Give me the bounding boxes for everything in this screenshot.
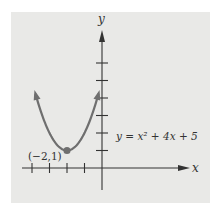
- x-axis-arrow: [178, 165, 190, 171]
- y-axis-label: y: [97, 12, 105, 26]
- vertex-label: (−2,1): [28, 150, 62, 162]
- x-axis-label: x: [192, 161, 199, 175]
- y-axis-arrow: [99, 30, 105, 42]
- curve-left-arrow: [34, 90, 41, 101]
- parabola-graph: x y y = x² + 4x + 5 (−2,1): [0, 0, 217, 206]
- vertex-point: [63, 147, 70, 154]
- curve-right-arrow: [94, 90, 101, 101]
- equation-label: y = x² + 4x + 5: [115, 130, 198, 142]
- parabola-curve: [36, 94, 99, 151]
